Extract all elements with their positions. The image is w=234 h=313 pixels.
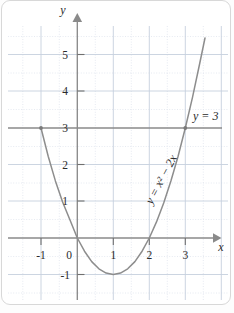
x-tick-label-2: 2 <box>146 249 152 261</box>
x-axis <box>8 233 222 243</box>
y-tick-label-3: 3 <box>62 122 68 134</box>
curve-parabola <box>41 38 205 275</box>
y-tick-label-5: 5 <box>62 49 68 61</box>
graph-figure: y x -1 0 1 2 3 5 4 3 2 1 -1 y = 3 y = x²… <box>0 0 234 313</box>
y-tick-label--1: -1 <box>60 269 70 281</box>
x-axis-label: x <box>217 240 224 254</box>
graph-canvas: y x -1 0 1 2 3 5 4 3 2 1 -1 y = 3 y = x²… <box>0 0 234 313</box>
label-curve-equation: y = x² − 2x <box>142 152 180 208</box>
y-tick-label-1: 1 <box>62 195 68 207</box>
x-tick-label-1: 1 <box>110 249 116 261</box>
y-tick-label-2: 2 <box>62 159 68 171</box>
y-axis-label: y <box>59 3 66 17</box>
y-axis <box>73 13 83 300</box>
label-line-y-equals-3: y = 3 <box>192 109 218 123</box>
x-tick-label-3: 3 <box>182 249 188 261</box>
y-tick-label-4: 4 <box>62 85 68 97</box>
intersection-point-left <box>39 126 43 130</box>
x-tick-label--1: -1 <box>36 249 46 261</box>
intersection-point-right <box>183 126 187 130</box>
x-tick-label-0: 0 <box>66 249 72 261</box>
